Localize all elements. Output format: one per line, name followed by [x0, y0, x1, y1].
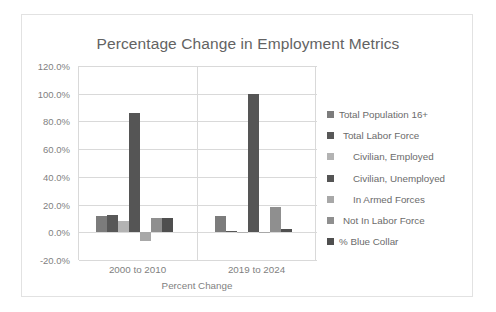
gridline	[79, 149, 317, 150]
legend-item-label: % Blue Collar	[339, 236, 398, 247]
legend-item[interactable]: Total Labor Force	[327, 125, 469, 146]
legend-swatch-icon	[327, 153, 334, 160]
gridline	[79, 177, 317, 178]
y-axis-tick-label: 80.0%	[43, 116, 70, 127]
bar	[118, 221, 129, 232]
legend-swatch-icon	[327, 132, 334, 139]
legend-swatch-icon	[327, 111, 334, 118]
legend-item[interactable]: % Blue Collar	[327, 231, 469, 252]
legend-item-label: Not In Labor Force	[339, 215, 425, 226]
y-axis-tick-label: 20.0%	[43, 199, 70, 210]
y-axis: 120.0%100.0%80.0%60.0%40.0%20.0%0.0%-20.…	[22, 66, 74, 260]
gridline	[79, 66, 317, 67]
chart-card: Percentage Change in Employment Metrics …	[21, 14, 473, 297]
legend-item-label: Civilian, Unemployed	[339, 173, 445, 184]
bar	[140, 232, 151, 240]
bar	[129, 113, 140, 232]
bar	[96, 216, 107, 232]
legend-swatch-icon	[327, 196, 334, 203]
category-divider	[197, 66, 198, 260]
y-axis-tick-label: 0.0%	[48, 227, 70, 238]
gridline	[79, 205, 317, 206]
legend-item-label: In Armed Forces	[339, 194, 425, 205]
bar	[107, 215, 118, 232]
x-axis-category-label: 2019 to 2024	[197, 264, 316, 275]
legend-item[interactable]: Not In Labor Force	[327, 210, 469, 231]
legend-item-label: Civilian, Employed	[339, 151, 434, 162]
legend-item-label: Total Population 16+	[339, 109, 428, 120]
plot-wrapper	[78, 66, 316, 260]
bar	[237, 232, 248, 233]
legend-item[interactable]: Civilian, Unemployed	[327, 168, 469, 189]
zero-line	[79, 232, 317, 233]
x-axis-category-label: 2000 to 2010	[78, 264, 197, 275]
legend-item[interactable]: Total Population 16+	[327, 104, 469, 125]
gridline	[79, 121, 317, 122]
bar	[151, 218, 162, 232]
legend-swatch-icon	[327, 238, 334, 245]
gridline	[79, 94, 317, 95]
y-axis-tick-label: 60.0%	[43, 144, 70, 155]
x-axis-title: Percent Change	[78, 280, 316, 291]
y-axis-tick-label: 120.0%	[38, 61, 70, 72]
chart-legend: Total Population 16+Total Labor ForceCiv…	[327, 104, 469, 252]
y-axis-tick-label: 100.0%	[38, 88, 70, 99]
bar	[259, 232, 270, 233]
bar	[281, 229, 292, 232]
y-axis-tick-label: 40.0%	[43, 171, 70, 182]
gridline	[79, 260, 317, 261]
legend-swatch-icon	[327, 175, 334, 182]
legend-item-label: Total Labor Force	[339, 130, 419, 141]
bar	[215, 216, 226, 233]
legend-swatch-icon	[327, 217, 334, 224]
legend-item[interactable]: In Armed Forces	[327, 189, 469, 210]
bar	[270, 207, 281, 232]
bar	[248, 94, 259, 232]
chart-title: Percentage Change in Employment Metrics	[22, 35, 474, 53]
bar	[162, 218, 173, 233]
legend-item[interactable]: Civilian, Employed	[327, 146, 469, 167]
y-axis-tick-label: -20.0%	[40, 255, 70, 266]
bar	[226, 231, 237, 232]
